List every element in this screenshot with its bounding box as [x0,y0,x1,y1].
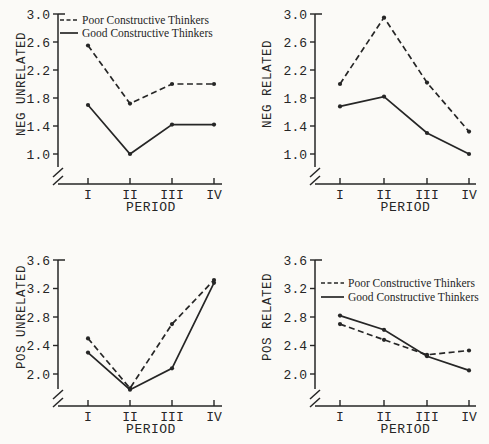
y-tick-label: 2.8 [27,311,50,326]
x-tick-label: IV [206,410,222,425]
series-line-poor [88,280,214,388]
axis-break-icon [310,168,320,177]
y-tick-label: 2.2 [284,64,307,79]
series-line-poor [340,324,469,355]
series-line-good [340,97,469,154]
y-tick-label: 2.6 [284,36,307,51]
x-axis-title: PERIOD [381,200,431,215]
y-tick-label: 1.4 [284,120,308,135]
data-point [467,130,471,134]
data-point [170,123,174,127]
y-tick-label: 2.4 [27,339,51,354]
data-point [212,82,216,86]
y-tick-label: 1.0 [284,148,307,163]
chart-neg-unrelated: 1.01.41.82.22.63.0IIIIIIIVPERIODNEG UNRE… [0,0,245,222]
data-point [170,82,174,86]
data-point [86,103,90,107]
legend-label: Good Constructive Thinkers [82,27,213,39]
x-tick-label: IV [461,188,477,203]
data-point [338,322,342,326]
y-tick-label: 3.6 [284,254,307,269]
series-line-good [340,316,469,371]
y-tick-label: 1.8 [284,92,307,107]
y-tick-label: 3.2 [27,282,50,297]
chart-cell-neg-related: 1.01.41.82.22.63.0IIIIIIIVPERIODNEG RELA… [245,0,489,222]
x-tick-label: I [336,188,344,203]
charts-grid: 1.01.41.82.22.63.0IIIIIIIVPERIODNEG UNRE… [0,0,489,444]
data-point [425,81,429,85]
data-point [128,152,132,156]
data-point [425,131,429,135]
y-axis-title: POS RELATED [261,273,275,361]
y-tick-label: 2.2 [27,64,50,79]
data-point [467,368,471,372]
x-axis-title: PERIOD [126,200,176,215]
x-tick-label: I [84,410,92,425]
data-point [382,15,386,19]
data-point [425,354,429,358]
data-point [212,123,216,127]
y-tick-label: 3.6 [27,254,50,269]
chart-pos-related: 2.02.42.83.23.6IIIIIIIVPERIODPOS RELATED… [245,222,489,444]
axis-break-icon [310,390,320,399]
y-tick-label: 1.8 [27,92,50,107]
x-tick-label: IV [206,188,222,203]
x-tick-label: I [336,410,344,425]
x-axis-title: PERIOD [126,422,176,437]
chart-cell-pos-related: 2.02.42.83.23.6IIIIIIIVPERIODPOS RELATED… [245,222,489,444]
y-tick-label: 2.0 [284,368,307,383]
y-tick-label: 3.0 [27,8,50,23]
legend-label: Good Constructive Thinkers [348,291,479,303]
data-point [338,82,342,86]
legend-label: Poor Constructive Thinkers [82,14,209,26]
data-point [86,43,90,47]
figure-page: 1.01.41.82.22.63.0IIIIIIIVPERIODNEG UNRE… [0,0,489,444]
y-tick-label: 1.0 [27,148,50,163]
y-tick-label: 2.6 [27,36,50,51]
y-tick-label: 1.4 [27,120,51,135]
series-line-poor [88,46,214,104]
data-point [467,152,471,156]
y-axis-title: NEG UNRELATED [15,32,29,136]
data-point [170,366,174,370]
data-point [338,314,342,318]
axis-break-icon [53,168,63,177]
data-point [382,338,386,342]
x-axis-title: PERIOD [381,422,431,437]
y-tick-label: 3.2 [284,282,307,297]
chart-cell-pos-unrelated: 2.02.42.83.23.6IIIIIIIVPERIODPOS UNRELAT… [0,222,245,444]
y-tick-label: 2.8 [284,311,307,326]
x-tick-label: I [84,188,92,203]
data-point [382,95,386,99]
data-point [212,281,216,285]
data-point [86,336,90,340]
data-point [128,388,132,392]
axis-break-icon [53,390,63,399]
y-tick-label: 3.0 [284,8,307,23]
y-axis-title: NEG RELATED [261,40,275,128]
series-line-good [88,105,214,154]
data-point [128,102,132,106]
y-tick-label: 2.4 [284,339,308,354]
x-tick-label: IV [461,410,477,425]
data-point [170,322,174,326]
data-point [86,351,90,355]
chart-cell-neg-unrelated: 1.01.41.82.22.63.0IIIIIIIVPERIODNEG UNRE… [0,0,245,222]
data-point [467,348,471,352]
y-tick-label: 2.0 [27,368,50,383]
chart-pos-unrelated: 2.02.42.83.23.6IIIIIIIVPERIODPOS UNRELAT… [0,222,245,444]
data-point [338,104,342,108]
legend-label: Poor Constructive Thinkers [348,277,475,289]
chart-neg-related: 1.01.41.82.22.63.0IIIIIIIVPERIODNEG RELA… [245,0,489,222]
y-axis-title: POS UNRELATED [15,265,29,369]
data-point [382,328,386,332]
